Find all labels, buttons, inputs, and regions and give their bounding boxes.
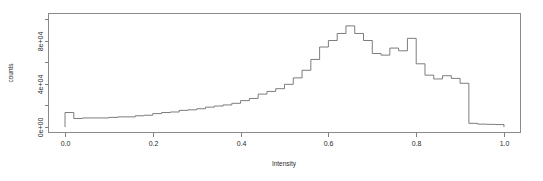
histogram-series bbox=[65, 26, 504, 127]
y-tick-label: 8e+04 bbox=[37, 32, 44, 52]
chart-figure: 0.00.20.40.60.81.0 0e+004e+048e+04 Inten… bbox=[0, 0, 543, 181]
y-tick-label: 4e+04 bbox=[37, 75, 44, 95]
histogram-plot: 0.00.20.40.60.81.0 0e+004e+048e+04 Inten… bbox=[0, 0, 543, 181]
x-tick-label: 0.8 bbox=[412, 140, 422, 147]
y-tick-label: 0e+00 bbox=[37, 118, 44, 138]
x-tick-label: 0.2 bbox=[149, 140, 159, 147]
y-axis-tick-labels: 0e+004e+048e+04 bbox=[37, 32, 44, 138]
x-tick-label: 0.0 bbox=[61, 140, 71, 147]
x-tick-label: 0.4 bbox=[237, 140, 247, 147]
plot-frame bbox=[49, 14, 521, 133]
x-axis-title: Intensity bbox=[272, 160, 297, 168]
x-axis-ticks bbox=[66, 133, 505, 137]
y-axis-title: counts bbox=[7, 63, 14, 83]
x-axis-tick-labels: 0.00.20.40.60.81.0 bbox=[61, 140, 510, 147]
x-tick-label: 0.6 bbox=[324, 140, 334, 147]
y-axis-ticks bbox=[45, 20, 49, 128]
x-tick-label: 1.0 bbox=[500, 140, 510, 147]
